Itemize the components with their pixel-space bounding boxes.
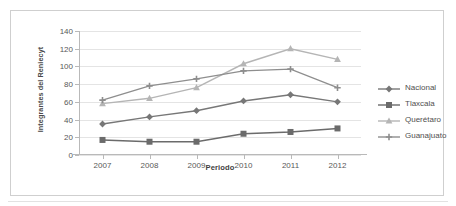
legend-item-guanajuato[interactable]: Guanajuato: [377, 127, 456, 143]
cross-data-point: [240, 68, 246, 74]
series-nacional: [99, 91, 341, 127]
square-data-point: [100, 137, 106, 143]
x-tick-mark: [244, 155, 245, 159]
cross-data-point: [193, 76, 199, 82]
triangle-marker-icon: [377, 113, 401, 125]
series-line: [103, 69, 338, 100]
diamond-data-point: [193, 107, 200, 114]
y-tick-label: 0: [69, 151, 73, 160]
caption-remnant: [0, 0, 456, 9]
legend-item-nacional[interactable]: Nacional: [377, 79, 456, 95]
x-tick-mark: [197, 155, 198, 159]
x-tick-mark: [338, 155, 339, 159]
plot-area: 020406080100120140 200720082009201020112…: [79, 31, 361, 155]
diamond-marker-icon: [377, 81, 401, 93]
y-axis-title: Integrantes del Reniecyt: [36, 32, 45, 148]
legend-item-querétaro[interactable]: Querétaro: [377, 111, 456, 127]
chart-plot-frame: Integrantes del Reniecyt 020406080100120…: [10, 10, 444, 196]
square-data-point: [241, 131, 247, 137]
series-lines: [79, 31, 361, 155]
x-tick-mark: [150, 155, 151, 159]
series-line: [103, 49, 338, 104]
legend-label: Querétaro: [405, 115, 441, 124]
square-data-point: [386, 102, 392, 108]
x-axis-title: Periodo: [79, 163, 361, 172]
x-tick-mark: [103, 155, 104, 159]
diamond-data-point: [99, 121, 106, 128]
cross-data-point: [287, 66, 293, 72]
y-tick-mark: [75, 155, 79, 156]
series-guanajuato: [99, 66, 340, 103]
y-tick-label: 60: [64, 97, 73, 106]
legend-label: Guanajuato: [405, 131, 446, 140]
y-tick-label: 40: [64, 115, 73, 124]
square-data-point: [288, 129, 294, 135]
legend-item-tlaxcala[interactable]: Tlaxcala: [377, 95, 456, 111]
diamond-data-point: [386, 86, 393, 93]
y-tick-label: 140: [60, 27, 73, 36]
diamond-data-point: [146, 114, 153, 121]
chart-figure: Integrantes del Reniecyt 020406080100120…: [0, 0, 456, 206]
diamond-data-point: [240, 98, 247, 105]
cross-data-point: [334, 84, 340, 90]
y-tick-label: 120: [60, 44, 73, 53]
cross-data-point: [99, 97, 105, 103]
diamond-data-point: [334, 98, 341, 105]
square-data-point: [147, 139, 153, 145]
triangle-data-point: [287, 45, 294, 51]
square-data-point: [335, 125, 341, 131]
diamond-data-point: [287, 91, 294, 98]
page-divider: [8, 201, 448, 202]
cross-data-point: [146, 83, 152, 89]
cross-data-point: [386, 134, 392, 140]
legend-label: Tlaxcala: [405, 99, 435, 108]
cross-marker-icon: [377, 129, 401, 141]
series-line: [103, 128, 338, 141]
x-tick-mark: [291, 155, 292, 159]
series-tlaxcala: [100, 125, 341, 144]
square-marker-icon: [377, 97, 401, 109]
legend-label: Nacional: [405, 83, 436, 92]
y-tick-label: 20: [64, 133, 73, 142]
y-tick-label: 100: [60, 62, 73, 71]
chart-legend: NacionalTlaxcalaQuerétaroGuanajuato: [377, 79, 456, 143]
y-tick-label: 80: [64, 80, 73, 89]
square-data-point: [194, 139, 200, 145]
gridline: [79, 155, 361, 156]
